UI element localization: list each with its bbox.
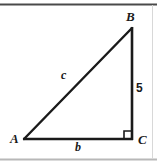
side-hypotenuse-c <box>24 28 132 139</box>
right-triangle-figure: A B C c b 5 <box>0 0 157 164</box>
vertex-label-c: C <box>138 133 147 146</box>
side-label-hypotenuse: c <box>61 69 66 81</box>
vertex-label-b: B <box>126 10 135 23</box>
right-angle-marker <box>124 131 131 138</box>
side-length-vertical: 5 <box>136 82 143 94</box>
side-label-base: b <box>75 141 81 153</box>
vertex-label-a: A <box>10 132 19 145</box>
